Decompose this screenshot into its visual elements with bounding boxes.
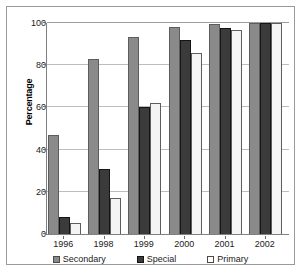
bar-special-1999: [139, 107, 150, 234]
x-tick-label: 1999: [124, 239, 164, 249]
legend-label: Secondary: [63, 255, 106, 264]
legend-swatch-icon: [53, 256, 60, 263]
bar-primary-1999: [150, 103, 161, 234]
chart-legend: SecondarySpecialPrimary: [7, 252, 294, 266]
bar-primary-2000: [191, 53, 202, 234]
y-tick-label: 60: [20, 103, 46, 112]
x-tick-label: 2001: [205, 239, 245, 249]
bar-group-2002: [249, 23, 282, 234]
y-tick-label: 80: [20, 61, 46, 70]
bar-primary-2002: [271, 23, 282, 234]
legend-label: Special: [147, 255, 177, 264]
bar-special-1998: [99, 169, 110, 234]
bar-special-2000: [180, 40, 191, 234]
y-tick-label: 0: [20, 230, 46, 239]
bar-group-2001: [209, 23, 242, 234]
plot-area: [46, 23, 289, 235]
y-tick-label: 20: [20, 188, 46, 197]
x-tick-label: 2000: [164, 239, 204, 249]
bar-special-2002: [260, 23, 271, 234]
y-tick-label: 100: [20, 19, 46, 28]
bar-secondary-1996: [48, 135, 59, 234]
bar-primary-1996: [70, 223, 81, 234]
bar-group-2000: [169, 23, 202, 234]
bar-secondary-2002: [249, 23, 260, 234]
legend-swatch-icon: [207, 256, 214, 263]
bar-secondary-2000: [169, 27, 180, 234]
x-tick-label: 1996: [43, 239, 83, 249]
legend-item-special[interactable]: Special: [137, 255, 177, 264]
y-axis: Percentage 020406080100: [15, 23, 46, 236]
legend-label: Primary: [217, 255, 248, 264]
y-axis-title: Percentage: [24, 67, 34, 137]
bar-primary-1998: [110, 198, 121, 234]
y-tick-label: 40: [20, 146, 46, 155]
x-axis: 199619981999200020012002: [46, 236, 289, 252]
bar-primary-2001: [231, 30, 242, 234]
bar-secondary-1998: [88, 59, 99, 234]
bar-group-1996: [48, 23, 81, 234]
bar-secondary-1999: [128, 37, 139, 234]
bar-special-2001: [220, 28, 231, 234]
bar-group-1999: [128, 23, 161, 234]
legend-swatch-icon: [137, 256, 144, 263]
chart-figure: Percentage 020406080100 1996199819992000…: [6, 6, 295, 265]
x-tick-label: 1998: [84, 239, 124, 249]
legend-item-secondary[interactable]: Secondary: [53, 255, 106, 264]
bar-secondary-2001: [209, 24, 220, 234]
x-tick-label: 2002: [245, 239, 285, 249]
bar-special-1996: [59, 217, 70, 234]
bar-group-1998: [88, 23, 121, 234]
legend-item-primary[interactable]: Primary: [207, 255, 248, 264]
